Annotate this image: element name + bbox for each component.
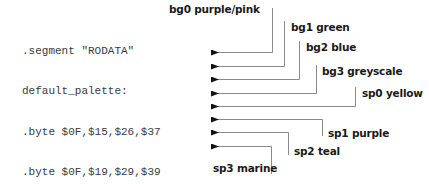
connector-bg2 [218, 41, 300, 80]
label-sp0: sp0 yellow [362, 87, 423, 99]
connector-sp1 [218, 120, 323, 137]
label-bg3: bg3 greyscale [322, 65, 402, 77]
connector-sp2 [218, 133, 289, 156]
label-bg1: bg1 green [291, 21, 350, 33]
label-sp2: sp2 teal [294, 145, 340, 157]
label-sp3: sp3 marine [213, 162, 277, 174]
connector-bg1 [218, 21, 285, 67]
label-bg0: bg0 purple/pink [169, 3, 260, 15]
connector-sp0 [218, 87, 356, 107]
label-sp1: sp1 purple [328, 127, 389, 139]
label-bg2: bg2 blue [306, 41, 356, 53]
